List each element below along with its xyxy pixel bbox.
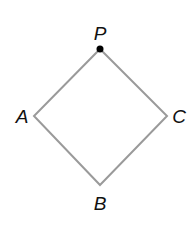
label-a: A bbox=[15, 106, 29, 127]
point-p-marker bbox=[97, 46, 104, 53]
label-b: B bbox=[94, 193, 107, 214]
label-p: P bbox=[94, 23, 107, 44]
diagram-canvas: P A C B bbox=[0, 0, 193, 227]
rhombus-outline bbox=[34, 49, 167, 185]
label-c: C bbox=[172, 106, 186, 127]
